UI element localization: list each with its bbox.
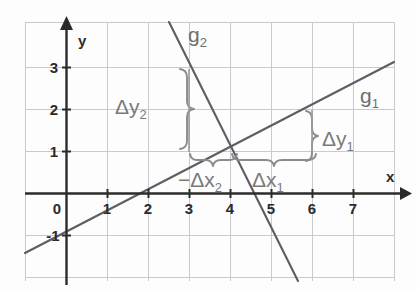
x-tick-0: 0 xyxy=(53,200,61,217)
figure-canvas: 0 1 2 3 4 5 6 7 3 2 1 -1 y x xyxy=(0,0,417,293)
x-tick-3: 3 xyxy=(185,200,193,217)
x-tick-6: 6 xyxy=(308,200,316,217)
axis-y xyxy=(60,16,73,285)
x-tick-4: 4 xyxy=(226,200,235,217)
label-minus-delta-x2: −Δx2 xyxy=(178,168,222,195)
triangle-guides xyxy=(189,69,312,152)
y-tick-2: 2 xyxy=(50,101,58,118)
label-g1: g1 xyxy=(360,84,379,111)
label-delta-y2: Δy2 xyxy=(115,95,147,122)
y-tick-neg-1: -1 xyxy=(46,227,59,244)
coordinate-plot: 0 1 2 3 4 5 6 7 3 2 1 -1 y x xyxy=(0,0,417,293)
brace-delta-x1 xyxy=(232,154,316,166)
x-tick-5: 5 xyxy=(267,200,275,217)
label-delta-x1: Δx1 xyxy=(252,168,284,195)
grid-lines xyxy=(25,22,395,281)
line-g1 xyxy=(25,62,394,253)
y-axis-label: y xyxy=(78,32,87,49)
y-tick-1: 1 xyxy=(50,143,58,160)
x-tick-2: 2 xyxy=(144,200,152,217)
x-tick-1: 1 xyxy=(103,200,111,217)
label-g2: g2 xyxy=(188,23,207,50)
label-delta-y1: Δy1 xyxy=(322,127,354,154)
y-tick-3: 3 xyxy=(50,59,58,76)
x-axis-label: x xyxy=(386,168,395,185)
x-tick-7: 7 xyxy=(349,200,357,217)
